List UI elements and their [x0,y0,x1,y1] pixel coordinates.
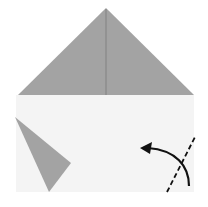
origami-diagram [0,0,208,207]
